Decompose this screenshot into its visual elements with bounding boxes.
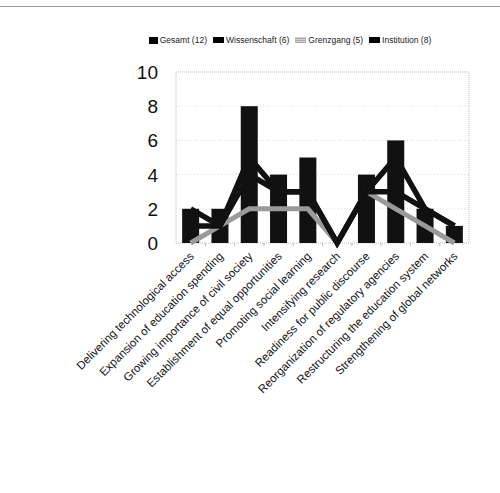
y-tick-label: 10 (137, 62, 158, 83)
y-tick-label: 0 (147, 233, 158, 254)
x-tick-label: Growing importance of civil society (121, 250, 255, 384)
y-tick-label: 8 (147, 96, 158, 117)
y-tick-label: 6 (147, 130, 158, 151)
series-line (191, 175, 455, 243)
y-tick-label: 4 (147, 165, 158, 186)
y-tick-label: 2 (147, 199, 158, 220)
x-tick-label: Expansion of education spending (97, 250, 225, 378)
chart-plot: 0246810Delivering technological accessEx… (0, 0, 500, 493)
